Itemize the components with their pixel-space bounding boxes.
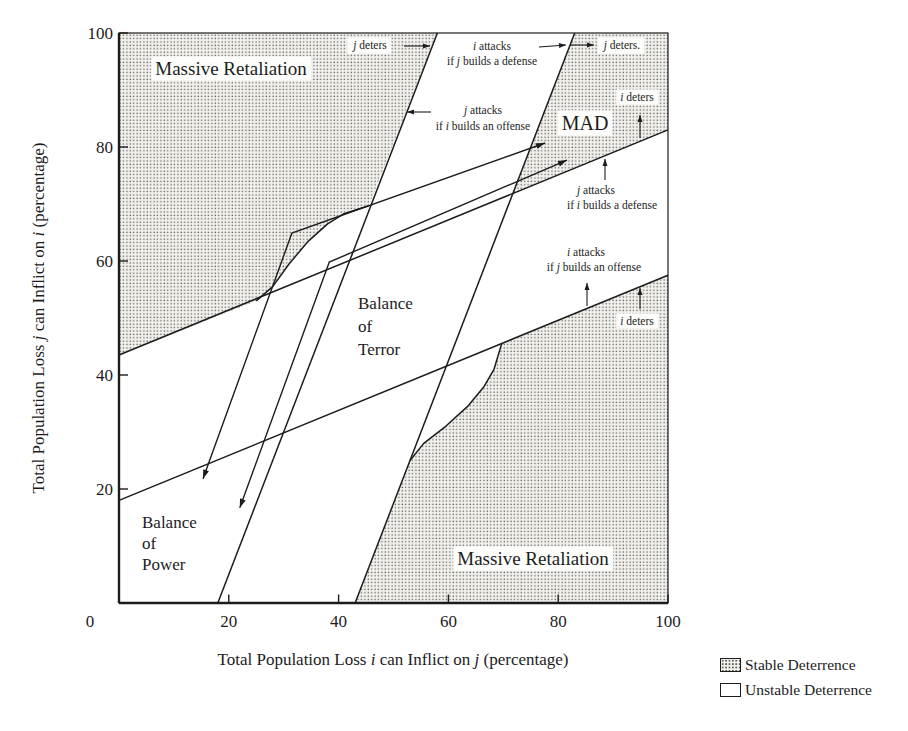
label-balance-of-terror-line-2: of [358,317,373,336]
label-balance-of-power-line-3: Power [142,555,186,574]
ann-i-attacks-if-j-builds-offense-arrowhead [585,283,590,290]
label-balance-of-power-line-2: of [142,534,157,553]
ann-i-attacks-if-j-builds-defense-line-2: if j builds a defense [447,55,537,68]
ann-j-attacks-if-i-builds-offense-line-2: if i builds an offense [436,120,530,132]
x-tick-label-80: 80 [550,612,567,631]
y-tick-label-80: 80 [96,138,113,157]
stable-deterrence-label: Stable Deterrence [745,652,856,677]
legend-item-stable-deterrence: Stable Deterrence [720,652,872,677]
ann-j-attacks-if-i-builds-defense-line-2: if i builds a defense [567,199,657,211]
x-tick-label-60: 60 [440,612,457,631]
ann-i-deters-mid-right: i deters [620,315,654,327]
x-tick-label-20: 20 [220,612,237,631]
label-massive-retaliation-upper: Massive Retaliation [155,58,307,79]
label-massive-retaliation-lower: Massive Retaliation [457,548,609,569]
label-mad: MAD [562,112,609,134]
ann-j-attacks-if-i-builds-defense-arrowhead [603,159,608,166]
ann-j-deters-upper-left: j deters [351,39,387,52]
arms-race-trajectory-1-tail-arrowhead [203,469,209,478]
label-balance-of-terror-line-3: Terror [358,340,401,359]
origin-tick-label: 0 [86,612,95,631]
unstable-deterrence-swatch [720,683,741,697]
legend-item-unstable-deterrence: Unstable Deterrence [720,677,872,702]
legend: Stable Deterrence Unstable Deterrence [720,652,872,702]
x-tick-label-40: 40 [330,612,347,631]
ann-i-attacks-if-j-builds-offense-line-1: i attacks [567,246,606,258]
ann-j-deters-upper-right: j deters. [602,39,641,52]
arms-race-trajectory-2-tail-arrowhead [240,498,246,507]
y-tick-label-100: 100 [88,24,114,43]
ann-j-attacks-if-i-builds-offense-line-1: j attacks [462,104,503,117]
ann-i-deters-top-right: i deters [620,91,654,103]
y-tick-label-20: 20 [96,480,113,499]
ann-i-attacks-if-j-builds-defense-line-1: i attacks [473,40,512,52]
ann-i-attacks-if-j-builds-offense-line-2: if j builds an offense [547,261,641,274]
label-balance-of-power-line-1: Balance [142,513,197,532]
unstable-deterrence-label: Unstable Deterrence [745,677,872,702]
deterrence-diagram: 20406080100204060801000Total Population … [0,0,908,731]
label-balance-of-terror-line-1: Balance [358,294,413,313]
x-axis-title: Total Population Loss i can Inflict on j… [217,650,568,669]
y-tick-label-60: 60 [96,252,113,271]
y-tick-label-40: 40 [96,366,113,385]
stable-deterrence-swatch [720,658,741,672]
x-tick-label-100: 100 [655,612,681,631]
y-axis-title: Total Population Loss j can Inflict on i… [29,142,48,493]
figure-deterrence-regions: 20406080100204060801000Total Population … [0,0,908,731]
ann-j-attacks-if-i-builds-defense-line-1: j attacks [575,184,616,197]
